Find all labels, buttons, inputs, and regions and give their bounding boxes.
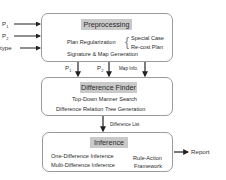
p2-prime-label: P2' [97,64,104,71]
relation-tree-text: Difference Relation Tree Generation [56,106,145,113]
special-case-text: Special Case [131,35,164,42]
p2-prime-sup: ' [103,63,104,68]
p2-prime-sub: 2 [101,68,103,73]
input-p2: P2 [2,32,8,39]
plan-regularization-text: Plan Regularization [67,39,116,46]
p1-prime-label: P1' [65,64,72,71]
input-p2-sub: 2 [6,36,8,41]
difference-finder-title: Difference Finder [80,82,137,93]
report-label: Report [191,148,210,155]
multi-difference-text: Multi-Difference Inference [51,162,115,169]
input-p1: P1 [2,20,8,27]
signature-map-text: Signature & Map Generation [67,51,138,58]
inference-title: Inference [90,137,128,148]
one-difference-text: One-Difference Inference [51,153,114,160]
framework-text: Framework [134,163,162,170]
preprocessing-box: Preprocessing Plan Regularization { Spec… [41,13,173,62]
difference-list-label: Difference List [110,121,139,128]
recost-plan-text: Re-cost Plan [131,44,163,51]
inference-box: Inference One-Difference Inference Multi… [42,132,173,172]
difference-finder-box: Difference Finder Top-Down Manner Search… [41,77,173,116]
top-down-search-text: Top-Down Manner Search [72,96,137,103]
input-p1-sub: 1 [6,24,8,29]
rule-action-text: Rule-Action [133,155,162,162]
input-type-label: type [0,44,12,51]
p1-prime-sup: ' [71,63,72,68]
brace-symbol: { [125,35,129,49]
map-info-label: Map Info. [119,65,138,72]
input-type: type [0,44,12,51]
preprocessing-title: Preprocessing [81,19,132,30]
p1-prime-sub: 1 [69,68,71,73]
